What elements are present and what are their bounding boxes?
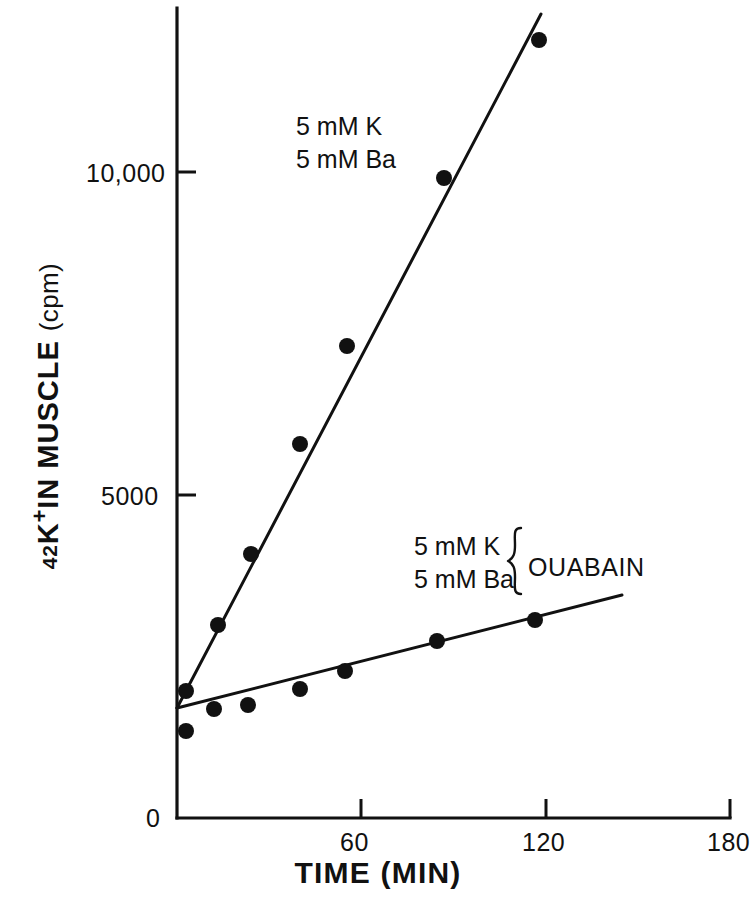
data-point [206,701,222,717]
data-point [240,697,256,713]
y-axis-title-charge: + [27,509,53,523]
data-point [178,723,194,739]
data-point [292,436,308,452]
y-axis-title-element: K [32,522,65,544]
y-tick-label-10000: 10,000 [86,159,165,188]
x-tick-label-60: 60 [340,828,369,857]
annotation-lower-series: 5 mM K 5 mM Ba [414,530,514,595]
data-point [436,170,452,186]
y-tick-label-5000: 5000 [101,482,159,511]
x-tick-label-120: 120 [522,828,565,857]
data-point [210,617,226,633]
y-axis-title-units: (cpm) [34,263,65,331]
data-point [339,338,355,354]
y-axis-title-text: IN MUSCLE [32,340,65,509]
data-point [178,683,194,699]
data-point [337,663,353,679]
annotation-ouabain-label: OUABAIN [528,553,645,582]
x-axis-title: TIME (MIN) [0,856,756,890]
y-axis-title: 42K+IN MUSCLE(cpm) [32,263,65,569]
y-tick-label-0: 0 [146,804,160,833]
data-point [531,32,547,48]
annotation-upper-line-2: 5 mM Ba [296,143,396,176]
annotation-lower-lines: 5 mM K 5 mM Ba [414,530,514,595]
annotation-upper-series: 5 mM K 5 mM Ba [296,110,396,175]
data-point [527,612,543,628]
data-point [429,633,445,649]
annotation-upper-line-1: 5 mM K [296,110,396,143]
figure-container: 10,000 5000 0 60 120 180 TIME (MIN) 42K+… [0,0,756,900]
fit-line-k-ba-ouabain [177,595,622,708]
annotation-lower-line-1: 5 mM K [414,530,514,563]
y-axis-title-mass-number: 42 [38,544,62,569]
annotation-lower-line-2: 5 mM Ba [414,563,514,596]
data-point [292,681,308,697]
x-tick-label-180: 180 [707,828,750,857]
y-axis-title-wrapper: 42K+IN MUSCLE(cpm) [24,106,72,726]
data-point [243,546,259,562]
